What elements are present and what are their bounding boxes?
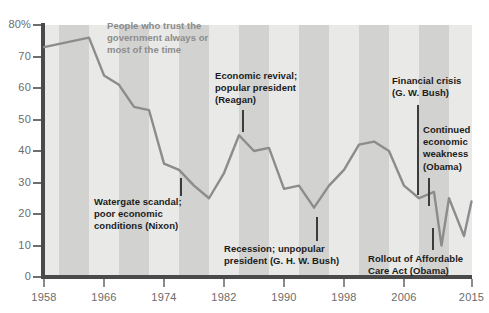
x-axis-tick — [163, 279, 165, 287]
x-axis-tick-label: 1998 — [331, 292, 356, 303]
annotation-leader-line — [432, 228, 434, 250]
y-axis-tick-label: 0 — [25, 271, 31, 282]
y-axis-tick-label: 60 — [18, 82, 31, 93]
x-axis-tick-label: 1982 — [211, 292, 236, 303]
y-axis-tick-label: 50 — [18, 114, 31, 125]
y-axis-tick — [33, 245, 41, 247]
trust-in-government-line-chart: 80%706050403020100 195819661974198219901… — [0, 0, 489, 313]
plot-area — [44, 25, 472, 277]
background-stripe — [179, 25, 209, 277]
x-axis-tick — [43, 279, 45, 287]
x-axis-tick-label: 1966 — [91, 292, 116, 303]
annotation-leader-line — [180, 178, 182, 196]
y-axis-tick-label: 80% — [8, 19, 31, 30]
annotation-affordable-care-act-obama: Rollout of Affordable Care Act (Obama) — [368, 253, 463, 277]
background-stripe — [119, 25, 149, 277]
x-axis-tick — [223, 279, 225, 287]
annotation-leader-line — [242, 110, 244, 132]
background-stripe — [299, 25, 329, 277]
x-axis-tick — [403, 279, 405, 287]
annotation-series-caption: People who trust the government always o… — [107, 20, 208, 57]
annotation-watergate-nixon: Watergate scandal; poor economic conditi… — [94, 196, 182, 233]
background-stripe — [59, 25, 89, 277]
annotation-leader-line — [428, 178, 430, 206]
annotation-economic-revival-reagan: Economic revival; popular president (Rea… — [215, 70, 297, 107]
y-axis-tick — [33, 150, 41, 152]
y-axis-tick-label: 10 — [18, 240, 31, 251]
annotation-leader-line — [417, 105, 419, 195]
x-axis-tick — [471, 279, 473, 287]
y-axis-tick-label: 20 — [18, 208, 31, 219]
annotation-financial-crisis-gw-bush: Financial crisis (G. W. Bush) — [392, 75, 461, 99]
y-axis-tick — [33, 24, 41, 26]
x-axis-tick-label: 2015 — [459, 292, 484, 303]
x-axis-tick-label: 1974 — [151, 292, 176, 303]
x-axis-tick-label: 1990 — [271, 292, 296, 303]
x-axis-tick — [103, 279, 105, 287]
annotation-leader-line — [316, 217, 318, 241]
y-axis-tick-label: 70 — [18, 51, 31, 62]
background-stripe — [359, 25, 389, 277]
y-axis-tick — [33, 182, 41, 184]
x-axis-tick-label: 2006 — [391, 292, 416, 303]
background-stripe — [239, 25, 269, 277]
x-axis-tick — [343, 279, 345, 287]
y-axis-tick — [33, 87, 41, 89]
x-axis-tick-label: 1958 — [31, 292, 56, 303]
y-axis-tick — [33, 119, 41, 121]
annotation-continued-economic-weakness-obama: Continued economic weakness (Obama) — [423, 124, 470, 173]
y-axis-tick-label: 30 — [18, 177, 31, 188]
x-axis-tick — [283, 279, 285, 287]
y-axis-line — [41, 23, 45, 279]
y-axis-tick-label: 40 — [18, 145, 31, 156]
annotation-recession-ghw-bush: Recession; unpopular president (G. H. W.… — [224, 243, 339, 267]
y-axis-tick — [33, 56, 41, 58]
y-axis-tick — [33, 276, 41, 278]
y-axis-tick — [33, 213, 41, 215]
